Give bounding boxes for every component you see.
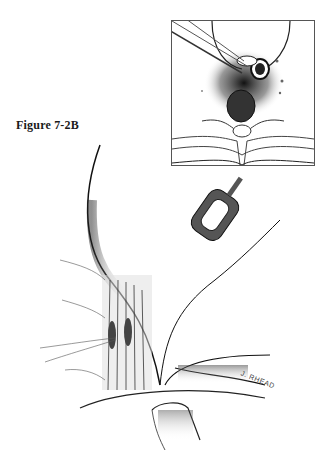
retractor-handle xyxy=(229,178,241,195)
lower-shading xyxy=(178,365,248,383)
retractor xyxy=(187,168,254,244)
speckle xyxy=(276,60,279,63)
bone-shading xyxy=(158,410,193,440)
figure-caption: Figure 7-2B xyxy=(16,118,79,133)
main-illustration xyxy=(0,140,334,465)
tissue-edge-right xyxy=(160,220,280,385)
ganglion-right xyxy=(124,318,132,346)
speckle xyxy=(279,92,281,94)
vessel-lumen xyxy=(255,63,265,75)
speckle xyxy=(201,90,203,92)
vertebral-body xyxy=(227,90,255,122)
ganglion-left xyxy=(108,321,116,349)
instrument-shaft-2 xyxy=(172,21,247,66)
speckle xyxy=(281,80,284,83)
spinal-canal xyxy=(233,125,251,137)
surgical-exposure-drawing xyxy=(0,140,334,465)
base-tissue-edge xyxy=(80,391,265,408)
